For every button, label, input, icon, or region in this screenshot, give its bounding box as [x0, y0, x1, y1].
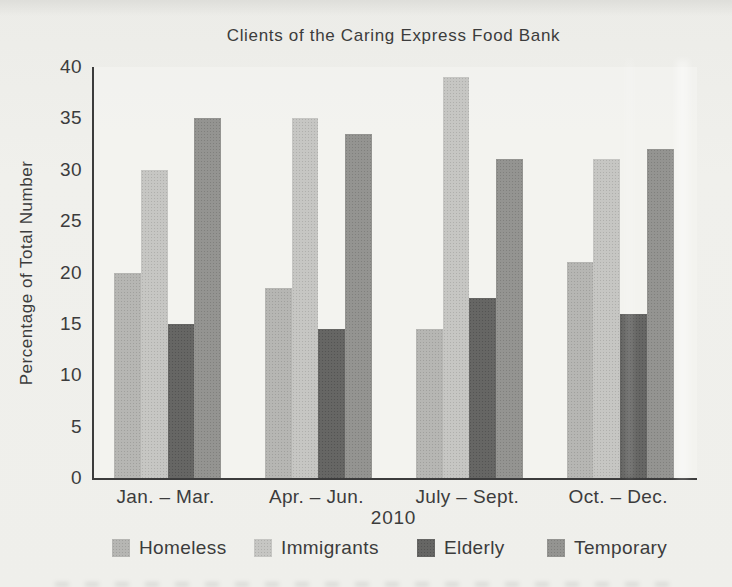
legend-swatch-immigrants	[254, 539, 272, 557]
y-tick-label-0: 0	[26, 468, 82, 488]
legend-label-temporary: Temporary	[574, 537, 667, 559]
x-tick-label-oct-dec: Oct. – Dec.	[538, 486, 698, 508]
x-tick-label-july-sept: July – Sept.	[387, 486, 547, 508]
bar-immigrants-oct-dec	[593, 159, 620, 478]
cropped-caption-smudge	[55, 582, 685, 587]
legend-item-immigrants: Immigrants	[254, 537, 379, 559]
y-tick-label-15: 15	[26, 314, 82, 334]
bar-homeless-jan-mar	[114, 273, 141, 479]
bar-elderly-july-sept	[469, 298, 496, 478]
bar-temporary-july-sept	[496, 159, 523, 478]
legend-swatch-homeless	[112, 539, 130, 557]
scanned-chart-page: Clients of the Caring Express Food Bank …	[0, 0, 732, 587]
chart-title: Clients of the Caring Express Food Bank	[92, 26, 695, 46]
legend-swatch-temporary	[547, 539, 565, 557]
bar-immigrants-apr-jun	[292, 118, 319, 478]
y-tick-label-10: 10	[26, 365, 82, 385]
bar-homeless-oct-dec	[567, 262, 594, 478]
y-tick-label-5: 5	[26, 417, 82, 437]
y-tick-label-35: 35	[26, 108, 82, 128]
legend-label-immigrants: Immigrants	[281, 537, 379, 559]
legend-item-temporary: Temporary	[547, 537, 667, 559]
x-axis-year-label: 2010	[92, 507, 695, 529]
bar-homeless-apr-jun	[265, 288, 292, 478]
x-tick-label-apr-jun: Apr. – Jun.	[236, 486, 396, 508]
y-tick-label-40: 40	[26, 57, 82, 77]
legend-label-elderly: Elderly	[444, 537, 505, 559]
bar-homeless-july-sept	[416, 329, 443, 478]
bar-elderly-jan-mar	[168, 324, 195, 478]
y-tick-label-30: 30	[26, 160, 82, 180]
bar-immigrants-jan-mar	[141, 170, 168, 478]
legend-swatch-elderly	[417, 539, 435, 557]
legend-item-elderly: Elderly	[417, 537, 505, 559]
legend-item-homeless: Homeless	[112, 537, 227, 559]
bar-temporary-oct-dec	[647, 149, 674, 478]
bar-temporary-jan-mar	[194, 118, 221, 478]
y-tick-label-20: 20	[26, 263, 82, 283]
plot-area	[92, 67, 697, 480]
legend-label-homeless: Homeless	[139, 537, 227, 559]
bar-immigrants-july-sept	[443, 77, 470, 478]
y-tick-label-25: 25	[26, 211, 82, 231]
bar-elderly-apr-jun	[318, 329, 345, 478]
x-tick-label-jan-mar: Jan. – Mar.	[86, 486, 246, 508]
bar-elderly-oct-dec	[620, 314, 647, 478]
scan-shadow	[0, 0, 732, 16]
bar-temporary-apr-jun	[345, 134, 372, 478]
